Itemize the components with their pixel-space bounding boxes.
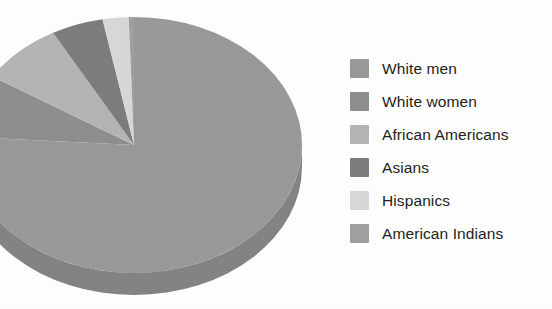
legend-item-african-americans[interactable]: African Americans	[350, 118, 550, 151]
legend-swatch-white-men	[350, 59, 369, 78]
pie-chart-figure: White men White women African Americans …	[0, 0, 552, 309]
legend-item-white-men[interactable]: White men	[350, 52, 550, 85]
legend-label-african-americans: African Americans	[382, 127, 509, 143]
legend-swatch-african-americans	[350, 125, 369, 144]
legend-swatch-hispanics	[350, 191, 369, 210]
legend-label-american-indians: American Indians	[382, 226, 503, 242]
legend-item-asians[interactable]: Asians	[350, 151, 550, 184]
legend-label-white-men: White men	[382, 61, 457, 77]
legend-label-asians: Asians	[382, 160, 429, 176]
legend-swatch-white-women	[350, 92, 369, 111]
legend-item-hispanics[interactable]: Hispanics	[350, 184, 550, 217]
legend-label-white-women: White women	[382, 94, 477, 110]
legend-item-american-indians[interactable]: American Indians	[350, 217, 550, 250]
legend-swatch-asians	[350, 158, 369, 177]
legend-swatch-american-indians	[350, 224, 369, 243]
chart-legend: White men White women African Americans …	[350, 52, 550, 250]
legend-label-hispanics: Hispanics	[382, 193, 450, 209]
pie-chart-svg	[0, 0, 340, 309]
pie-chart-plot-area	[0, 0, 340, 309]
legend-item-white-women[interactable]: White women	[350, 85, 550, 118]
